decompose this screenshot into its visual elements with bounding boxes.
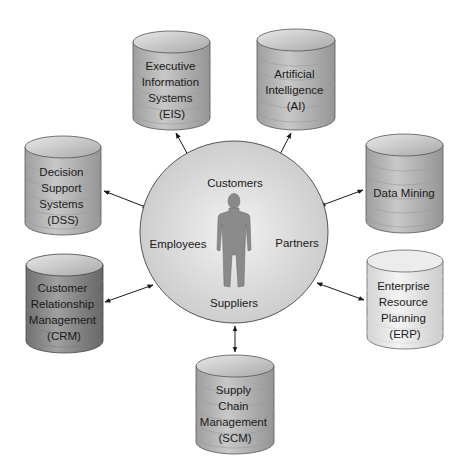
erp-line-4: (ERP)	[389, 328, 420, 340]
dss-line-1: Decision	[39, 166, 83, 178]
label-partners: Partners	[275, 237, 319, 249]
label-suppliers: Suppliers	[210, 297, 258, 309]
connector-dm	[320, 190, 363, 206]
connector-dss	[104, 191, 148, 208]
crm-line-4: (CRM)	[47, 330, 81, 342]
erp-line-1: Enterprise	[377, 280, 429, 292]
eis-line-2: Information	[142, 76, 200, 88]
cylinder-scm: Supply Chain Management (SCM)	[196, 355, 274, 454]
eis-line-4: (EIS)	[159, 108, 185, 120]
eis-line-3: Systems	[148, 92, 192, 104]
information-systems-diagram: Customers Employees Partners Suppliers E…	[0, 0, 467, 467]
connector-crm	[105, 285, 153, 302]
crm-line-3: Management	[29, 314, 97, 326]
svg-text:Data Mining: Data Mining	[373, 187, 434, 199]
dm-line-1: Data Mining	[373, 187, 434, 199]
cylinder-data-mining: Data Mining	[366, 134, 443, 233]
ai-line-3: (AI)	[287, 100, 306, 112]
dss-line-4: (DSS)	[47, 214, 78, 226]
erp-line-2: Resource	[379, 296, 428, 308]
label-employees: Employees	[150, 238, 207, 250]
dss-line-2: Support	[41, 182, 82, 194]
cylinder-erp: Enterprise Resource Planning (ERP)	[367, 250, 443, 349]
crm-line-1: Customer	[37, 282, 87, 294]
scm-line-1: Supply	[216, 384, 251, 396]
cylinder-ai: Artificial Intelligence (AI)	[257, 29, 335, 130]
dss-line-3: Systems	[39, 198, 83, 210]
ai-line-1: Artificial	[274, 68, 314, 80]
scm-line-3: Management	[200, 416, 268, 428]
eis-line-1: Executive	[145, 60, 195, 72]
crm-line-2: Relationship	[31, 298, 94, 310]
cylinder-dss: Decision Support Systems (DSS)	[25, 136, 101, 235]
ai-line-2: Intelligence	[265, 84, 323, 96]
scm-line-4: (SCM)	[218, 432, 251, 444]
erp-line-3: Planning	[381, 312, 426, 324]
label-customers: Customers	[207, 177, 263, 189]
center-stakeholders: Customers Employees Partners Suppliers	[140, 141, 328, 323]
cylinder-crm: Customer Relationship Management (CRM)	[26, 254, 103, 353]
scm-line-2: Chain	[218, 400, 248, 412]
cylinder-eis: Executive Information Systems (EIS)	[133, 31, 210, 130]
connector-erp	[317, 283, 364, 300]
